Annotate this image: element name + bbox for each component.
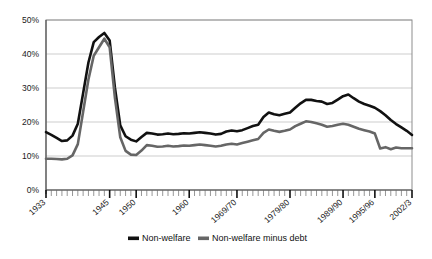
line-chart: 0%10%20%30%40%50% 19331945195019601969/7…	[0, 0, 432, 259]
x-axis-labels: 19331945195019601969/701979/801989/90199…	[27, 197, 414, 225]
legend-label-0: Non-welfare	[142, 233, 191, 243]
y-tick-label: 50%	[22, 15, 39, 25]
gridlines	[46, 20, 412, 156]
legend-swatch-1	[198, 237, 209, 241]
chart-container: 0%10%20%30%40%50% 19331945195019601969/7…	[0, 0, 432, 259]
x-tick-label: 1979/80	[262, 197, 292, 225]
chart-legend: Non-welfareNon-welfare minus debt	[128, 233, 308, 243]
x-tick-label: 1995/96	[347, 197, 377, 225]
y-tick-label: 0%	[27, 185, 40, 195]
x-axis-ticks	[46, 190, 412, 198]
y-tick-label: 20%	[22, 117, 39, 127]
series-lines	[46, 33, 412, 159]
legend-swatch-0	[128, 237, 139, 241]
y-tick-label: 10%	[22, 151, 39, 161]
y-tick-label: 30%	[22, 83, 39, 93]
x-tick-label: 1960	[170, 197, 191, 217]
legend-label-1: Non-welfare minus debt	[212, 233, 308, 243]
y-tick-label: 40%	[22, 49, 39, 59]
y-axis-labels: 0%10%20%30%40%50%	[22, 15, 39, 195]
x-tick-label: 1933	[27, 197, 48, 217]
x-tick-label: 1989/90	[315, 197, 345, 225]
x-tick-label: 2002/3	[387, 197, 413, 222]
series-line-0	[46, 33, 412, 141]
x-tick-label: 1969/70	[209, 197, 239, 225]
x-tick-label: 1945	[90, 197, 111, 217]
x-tick-label: 1950	[117, 197, 138, 217]
